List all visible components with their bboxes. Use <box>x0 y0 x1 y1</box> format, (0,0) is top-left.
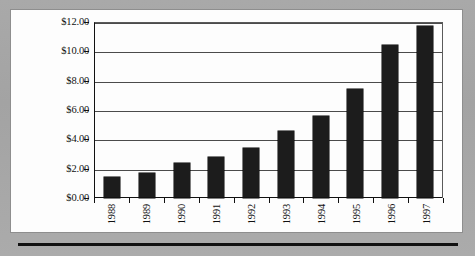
y-tick-mark <box>84 81 89 82</box>
x-tick-mark <box>269 198 270 203</box>
y-tick-mark <box>84 169 89 170</box>
bar-1993[interactable] <box>278 131 294 198</box>
bar-1990[interactable] <box>174 163 190 198</box>
x-tick-label: 1996 <box>385 204 396 224</box>
x-label-slot: 1992 <box>234 204 269 232</box>
x-axis: 1988198919901991199219931994199519961997 <box>94 204 443 232</box>
bar-slot <box>338 23 373 198</box>
bar-1997[interactable] <box>417 26 433 198</box>
bar-slot <box>269 23 304 198</box>
x-tick-mark <box>443 198 444 203</box>
chart-plot-wrapper: $0.00$2.00$4.00$6.00$8.00$10.00$12.00 19… <box>11 10 462 232</box>
bar-slot <box>373 23 408 198</box>
x-label-slot: 1993 <box>269 204 304 232</box>
x-tick-mark <box>303 198 304 203</box>
x-axis-tick-marks <box>94 198 443 203</box>
x-label-slot: 1988 <box>94 204 129 232</box>
bar-1996[interactable] <box>382 45 398 198</box>
y-tick-mark <box>84 139 89 140</box>
bar-slot <box>303 23 338 198</box>
x-tick-label: 1991 <box>211 204 222 224</box>
chart-panel: $0.00$2.00$4.00$6.00$8.00$10.00$12.00 19… <box>11 10 462 232</box>
x-tick-mark <box>373 198 374 203</box>
bar-1991[interactable] <box>208 157 224 198</box>
bar-1988[interactable] <box>104 177 120 198</box>
x-label-slot: 1990 <box>164 204 199 232</box>
x-tick-mark <box>408 198 409 203</box>
x-tick-label: 1994 <box>315 204 326 224</box>
x-tick-label: 1995 <box>350 204 361 224</box>
x-tick-label: 1993 <box>280 204 291 224</box>
x-tick-label: 1988 <box>106 204 117 224</box>
x-tick-label: 1990 <box>176 204 187 224</box>
x-label-slot: 1994 <box>303 204 338 232</box>
bar-slot <box>164 23 199 198</box>
bar-series <box>95 23 442 198</box>
bar-slot <box>95 23 130 198</box>
x-label-slot: 1996 <box>373 204 408 232</box>
x-tick-label: 1997 <box>420 204 431 224</box>
y-axis: $0.00$2.00$4.00$6.00$8.00$10.00$12.00 <box>29 22 89 198</box>
x-label-slot: 1997 <box>408 204 443 232</box>
horizontal-rule <box>18 243 458 246</box>
x-tick-mark <box>94 198 95 203</box>
bar-1994[interactable] <box>313 116 329 198</box>
x-tick-mark <box>199 198 200 203</box>
y-tick-mark <box>84 22 89 23</box>
x-tick-mark <box>129 198 130 203</box>
x-tick-mark <box>164 198 165 203</box>
x-tick-label: 1989 <box>141 204 152 224</box>
x-label-slot: 1995 <box>338 204 373 232</box>
bar-slot <box>407 23 442 198</box>
y-tick-mark <box>84 51 89 52</box>
bar-1995[interactable] <box>347 89 363 198</box>
x-label-slot: 1989 <box>129 204 164 232</box>
x-tick-label: 1992 <box>246 204 257 224</box>
y-tick-mark <box>84 110 89 111</box>
x-tick-mark <box>338 198 339 203</box>
bar-slot <box>234 23 269 198</box>
bar-1989[interactable] <box>139 173 155 198</box>
x-label-slot: 1991 <box>199 204 234 232</box>
x-tick-mark <box>234 198 235 203</box>
y-tick-mark <box>84 198 89 199</box>
bar-slot <box>130 23 165 198</box>
plot-area <box>94 22 443 198</box>
bar-slot <box>199 23 234 198</box>
bar-1992[interactable] <box>243 148 259 198</box>
